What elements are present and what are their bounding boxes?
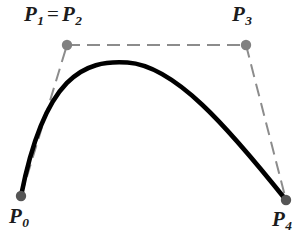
bezier-curve <box>21 62 286 200</box>
label-p3: P3 <box>232 4 252 25</box>
label-p2-subscript: 2 <box>75 13 82 28</box>
bezier-figure: P1=P2 P3 P0 P4 <box>0 0 298 233</box>
label-equals-sign: = <box>44 2 62 26</box>
label-p3-subscript: 3 <box>245 13 252 28</box>
label-p1-equals-p2: P1=P2 <box>24 4 82 25</box>
label-p4-subscript: 4 <box>285 218 292 233</box>
label-p4-base: P <box>272 207 285 231</box>
label-p1-subscript: 1 <box>37 13 44 28</box>
control-point-p1-p2[interactable] <box>62 40 72 50</box>
label-p4: P4 <box>272 209 292 230</box>
label-p0-base: P <box>9 204 22 228</box>
label-p0: P0 <box>9 206 29 227</box>
label-p0-subscript: 0 <box>22 215 29 230</box>
label-p2-base: P <box>62 2 75 26</box>
label-p3-base: P <box>232 2 245 26</box>
control-point-p3[interactable] <box>241 40 251 50</box>
label-p1-base: P <box>24 2 37 26</box>
bezier-figure-canvas <box>0 0 298 233</box>
control-point-p0[interactable] <box>16 191 26 201</box>
control-point-group <box>16 40 291 205</box>
control-point-p4[interactable] <box>281 195 291 205</box>
